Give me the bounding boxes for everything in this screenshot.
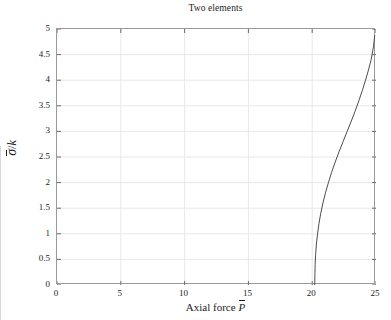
plot-area bbox=[56, 28, 375, 284]
y-tick-label: 4 bbox=[4, 74, 50, 84]
x-tick-label: 15 bbox=[227, 288, 267, 299]
y-tick-label: 5 bbox=[4, 23, 50, 33]
y-axis-label: σ/k bbox=[4, 120, 20, 176]
y-tick-label: 0.5 bbox=[4, 253, 50, 263]
y-axis-label-numerator: σ bbox=[4, 149, 19, 156]
y-tick-label: 2 bbox=[4, 177, 50, 187]
x-tick-label: 20 bbox=[291, 288, 331, 299]
x-tick-label: 25 bbox=[355, 288, 391, 299]
x-axis-label-text: Axial force bbox=[186, 301, 236, 313]
chart-title: Two elements bbox=[56, 2, 375, 14]
y-tick-label: 1.5 bbox=[4, 202, 50, 212]
y-tick-label: 1 bbox=[4, 228, 50, 238]
x-tick-label: 0 bbox=[36, 288, 76, 299]
x-tick-label: 5 bbox=[100, 288, 140, 299]
y-tick-label: 3.5 bbox=[4, 100, 50, 110]
x-axis-label: Axial force P bbox=[56, 300, 375, 314]
y-tick-label: 4.5 bbox=[4, 49, 50, 59]
y-axis-label-denominator: k bbox=[5, 140, 19, 145]
series-line bbox=[315, 36, 375, 285]
x-axis-label-symbol: P bbox=[238, 300, 245, 314]
plot-svg bbox=[57, 29, 376, 285]
x-tick-label: 10 bbox=[164, 288, 204, 299]
gridlines bbox=[57, 29, 376, 285]
figure-canvas: Two elements 00.511.522.533.544.55 05101… bbox=[0, 0, 391, 320]
data-series bbox=[315, 36, 375, 285]
